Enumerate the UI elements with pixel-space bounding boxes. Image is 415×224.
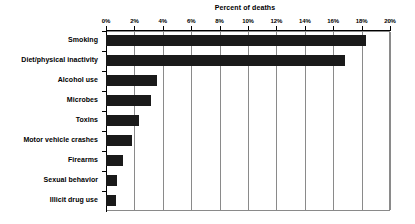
bar (106, 155, 123, 166)
bar-row: Illicit drug use (0, 191, 415, 211)
bar-row: Alcohol use (0, 71, 415, 91)
bar (106, 175, 117, 186)
y-axis-tick-mark (102, 151, 106, 152)
y-axis-category-label: Alcohol use (58, 76, 98, 83)
y-axis-category-label: Firearms (68, 156, 98, 163)
x-axis-tick-label: 6% (187, 18, 195, 24)
bar-row: Toxins (0, 111, 415, 131)
x-axis-tick-label: 10% (242, 18, 254, 24)
bar-row: Microbes (0, 91, 415, 111)
y-axis-category-label: Smoking (68, 36, 98, 43)
y-axis-tick-mark (102, 111, 106, 112)
x-axis-tick-label: 18% (356, 18, 368, 24)
bar-chart: Percent of deaths 0%2%4%6%8%10%12%14%16%… (0, 0, 415, 224)
x-axis-tick-label: 12% (271, 18, 283, 24)
bar (106, 55, 345, 66)
x-axis-tick-label: 20% (384, 18, 396, 24)
bar (106, 195, 116, 206)
x-axis-tick-label: 2% (130, 18, 138, 24)
x-axis-tick-label: 8% (215, 18, 223, 24)
y-axis-tick-mark (102, 31, 106, 32)
x-axis-tick-label: 14% (299, 18, 311, 24)
y-axis-category-label: Motor vehicle crashes (23, 136, 98, 143)
x-axis-tick-label: 16% (327, 18, 339, 24)
y-axis-tick-mark (102, 171, 106, 172)
bar-row: Motor vehicle crashes (0, 131, 415, 151)
y-axis-tick-mark (102, 131, 106, 132)
y-axis-tick-mark (102, 51, 106, 52)
x-axis-tick-label: 4% (159, 18, 167, 24)
y-axis-category-label: Toxins (76, 116, 98, 123)
bar (106, 135, 132, 146)
bar (106, 35, 366, 46)
bar-row: Sexual behavior (0, 171, 415, 191)
y-axis-tick-mark (102, 191, 106, 192)
y-axis-category-label: Sexual behavior (44, 176, 98, 183)
bar (106, 95, 151, 106)
bar-row: Diet/physical inactivity (0, 51, 415, 71)
bar-row: Smoking (0, 31, 415, 51)
chart-title: Percent of deaths (185, 4, 305, 11)
bar (106, 75, 157, 86)
y-axis-tick-mark (102, 71, 106, 72)
x-axis-tick-label: 0% (102, 18, 110, 24)
bar-row: Firearms (0, 151, 415, 171)
y-axis-category-label: Diet/physical inactivity (21, 56, 98, 63)
y-axis-category-label: Illicit drug use (50, 196, 98, 203)
y-axis-category-label: Microbes (67, 96, 98, 103)
bar (106, 115, 139, 126)
y-axis-tick-mark (102, 91, 106, 92)
